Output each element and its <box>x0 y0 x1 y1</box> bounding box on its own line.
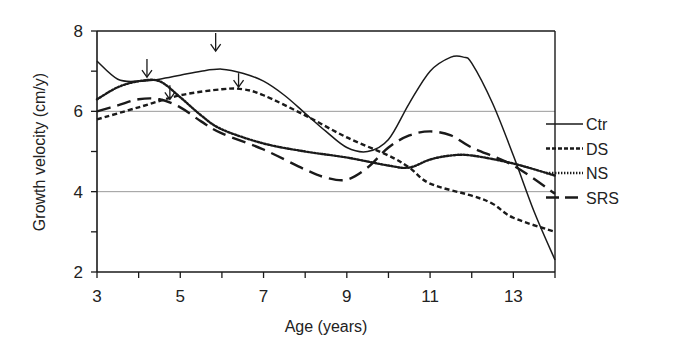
legend-label: DS <box>586 141 608 158</box>
series-line-ds <box>97 88 555 231</box>
x-tick-label: 3 <box>92 287 101 306</box>
down-arrow-icon <box>211 33 221 51</box>
down-arrow-icon <box>234 73 244 87</box>
series-lines <box>97 56 555 260</box>
growth-velocity-chart: 357911132468 Age (years) Growth velocity… <box>0 0 685 360</box>
x-tick-label: 11 <box>421 287 439 306</box>
tick-labels: 357911132468 <box>74 22 523 306</box>
down-arrow-icon <box>142 59 152 77</box>
x-axis-title: Age (years) <box>285 318 368 335</box>
legend-label: Ctr <box>586 116 608 133</box>
x-tick-label: 7 <box>259 287 268 306</box>
legend-label: NS <box>586 165 608 182</box>
y-tick-label: 6 <box>74 102 83 121</box>
y-tick-label: 4 <box>74 183 83 202</box>
y-tick-label: 2 <box>74 263 83 282</box>
legend: CtrDSNSSRS <box>546 116 619 207</box>
peak-arrows <box>142 33 244 99</box>
y-axis-title: Growth velocity (cm/y) <box>31 73 48 231</box>
gridlines <box>97 111 555 191</box>
x-tick-label: 5 <box>176 287 185 306</box>
x-tick-label: 13 <box>504 287 523 306</box>
legend-item-srs: SRS <box>546 190 619 207</box>
series-line-srs <box>97 98 555 193</box>
x-tick-label: 9 <box>342 287 351 306</box>
legend-label: SRS <box>586 190 619 207</box>
y-tick-label: 8 <box>74 22 83 41</box>
